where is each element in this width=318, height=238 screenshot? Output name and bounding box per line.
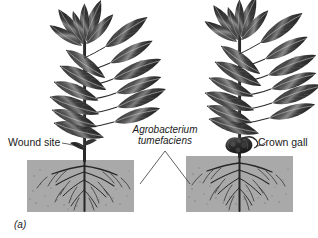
crown-gall-figure: Wound site Crown gall Agrobacterium tume… (0, 0, 318, 238)
label-agrobacterium-tumefaciens: Agrobacterium tumefaciens (122, 124, 208, 146)
soil-box-left (27, 150, 134, 212)
leader-line-bacterium (140, 151, 190, 184)
soil-box-right (186, 146, 293, 212)
label-agrobacterium-genus: Agrobacterium (122, 124, 208, 135)
plant-icon-right (203, 0, 318, 146)
illustration-canvas (0, 0, 318, 238)
label-agrobacterium-species: tumefaciens (122, 135, 208, 146)
label-crown-gall: Crown gall (258, 137, 308, 149)
crown-gall-icon (225, 137, 257, 154)
label-wound-site: Wound site (8, 137, 60, 149)
panel-label: (a) (14, 219, 26, 230)
